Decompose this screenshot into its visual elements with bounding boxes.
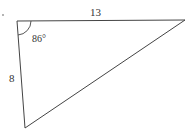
- left-side-label: 8: [9, 72, 15, 84]
- angle-arc: [18, 21, 31, 35]
- top-side-label: 13: [90, 6, 102, 18]
- angle-label: 86°: [32, 33, 46, 44]
- stray-dot: [2, 14, 4, 16]
- triangle-svg: 13 8 86°: [0, 0, 189, 135]
- triangle-diagram: 13 8 86°: [0, 0, 189, 135]
